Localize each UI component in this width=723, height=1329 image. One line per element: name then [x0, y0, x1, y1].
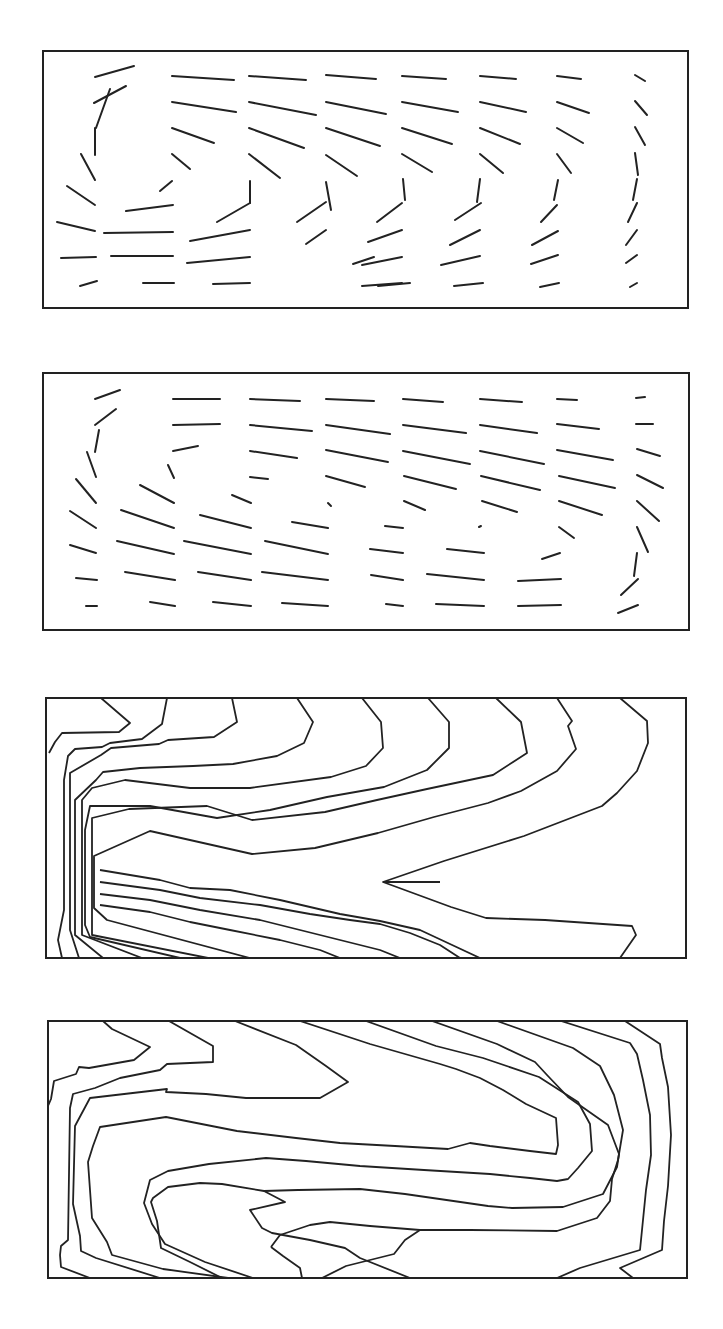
direction-segment — [198, 572, 251, 580]
direction-segment — [479, 526, 481, 527]
direction-segment — [554, 180, 558, 200]
direction-segment — [250, 451, 297, 458]
contour-line — [557, 1021, 651, 1278]
direction-segment — [150, 602, 175, 606]
direction-segment — [477, 179, 480, 202]
direction-segment — [70, 545, 96, 553]
panel-4-contour-plot — [48, 1021, 687, 1278]
direction-segment — [559, 527, 574, 538]
direction-segment — [386, 604, 403, 606]
direction-segment — [368, 230, 402, 242]
direction-segment — [557, 424, 599, 429]
direction-segment — [140, 485, 174, 503]
direction-segment — [450, 230, 480, 245]
direction-segment — [282, 603, 328, 606]
direction-segment — [328, 503, 331, 506]
direction-segment — [292, 522, 328, 528]
direction-segment — [635, 75, 645, 81]
direction-segment — [633, 179, 637, 200]
direction-segment — [518, 579, 561, 581]
direction-segment — [402, 154, 432, 172]
direction-segment — [377, 203, 402, 222]
direction-segment — [441, 256, 480, 265]
direction-segment — [518, 605, 561, 606]
direction-segment — [557, 76, 581, 79]
direction-segment — [326, 399, 374, 401]
direction-segment — [232, 495, 251, 503]
direction-segment — [634, 553, 637, 576]
panel-frame — [43, 373, 689, 630]
direction-segment — [635, 153, 638, 175]
direction-segment — [187, 257, 250, 263]
direction-segment — [480, 399, 522, 402]
direction-segment — [480, 154, 503, 173]
direction-segment — [126, 205, 173, 211]
direction-segment — [249, 154, 280, 178]
direction-segment — [559, 501, 602, 515]
direction-segment — [455, 203, 481, 220]
direction-segment — [326, 450, 388, 462]
direction-segment — [557, 399, 577, 400]
direction-segment — [190, 230, 250, 241]
direction-segment — [249, 128, 304, 148]
direction-segment — [480, 128, 520, 144]
direction-segment — [636, 397, 645, 398]
direction-segment — [626, 230, 637, 245]
direction-segment — [532, 231, 558, 245]
direction-segment — [480, 76, 516, 79]
direction-segment — [427, 574, 484, 580]
panel-frame — [43, 51, 688, 308]
direction-segment — [262, 572, 328, 580]
direction-segment — [87, 452, 96, 477]
direction-segment — [403, 399, 443, 402]
direction-segment — [481, 476, 540, 490]
direction-segment — [117, 541, 174, 554]
direction-segment — [630, 283, 637, 287]
direction-segment — [454, 283, 483, 286]
direction-segment — [637, 475, 663, 488]
panel-2-vector-field — [43, 373, 689, 630]
direction-segment — [172, 76, 234, 80]
direction-segment — [95, 409, 116, 425]
direction-segment — [326, 182, 331, 210]
direction-segment — [447, 549, 484, 553]
direction-segment — [403, 425, 466, 433]
direction-segment — [326, 75, 376, 79]
direction-segment — [326, 425, 390, 434]
contour-line — [151, 1021, 619, 1278]
direction-segment — [557, 154, 571, 173]
direction-segment — [402, 128, 452, 144]
contour-line — [620, 1021, 671, 1278]
direction-segment — [404, 501, 425, 510]
direction-segment — [559, 476, 615, 488]
direction-segment — [70, 511, 96, 528]
direction-segment — [531, 255, 558, 264]
direction-segment — [480, 425, 537, 433]
direction-segment — [67, 186, 95, 205]
direction-segment — [61, 257, 96, 258]
direction-segment — [626, 255, 637, 263]
contour-line — [271, 1247, 302, 1278]
direction-segment — [104, 232, 173, 233]
contour-line — [70, 698, 237, 958]
direction-segment — [95, 66, 134, 77]
figure-canvas — [0, 0, 723, 1329]
direction-segment — [385, 526, 403, 528]
contour-line — [60, 1021, 213, 1278]
direction-segment — [621, 579, 638, 595]
panel-1-vector-field — [43, 51, 688, 308]
direction-segment — [125, 572, 175, 580]
direction-segment — [436, 604, 484, 606]
direction-segment — [637, 501, 659, 521]
direction-segment — [402, 102, 458, 112]
direction-segment — [160, 181, 172, 191]
direction-segment — [250, 399, 300, 401]
direction-segment — [482, 501, 517, 512]
contour-line — [383, 698, 648, 958]
direction-segment — [557, 128, 583, 143]
direction-segment — [326, 155, 357, 176]
contour-line — [92, 698, 527, 958]
contour-line — [75, 698, 313, 958]
direction-segment — [635, 127, 645, 145]
direction-segment — [326, 476, 365, 487]
